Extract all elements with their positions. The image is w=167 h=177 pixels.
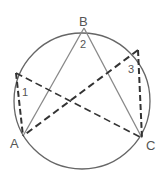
diagram: B A C 1 2 3 [0,0,167,177]
segment-AB [23,28,84,136]
angle-label-3: 3 [128,63,134,75]
segment-P3C [138,50,142,138]
point-label-b: B [79,14,88,29]
point-label-a: A [10,136,19,151]
point-label-c: C [146,138,155,153]
segment-P1C [16,73,142,138]
segment-P3A [23,50,138,136]
geometry-canvas: B A C 1 2 3 [0,0,167,177]
circle [14,33,150,169]
angle-label-1: 1 [22,86,28,98]
angle-label-2: 2 [80,38,86,50]
